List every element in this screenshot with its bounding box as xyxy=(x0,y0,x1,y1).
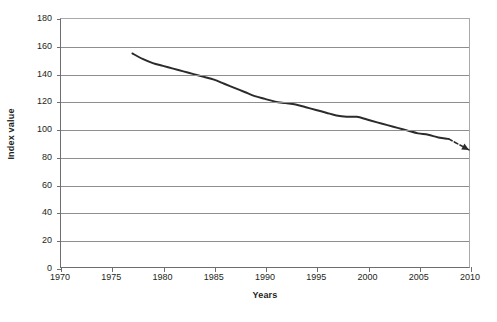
gridline xyxy=(61,241,469,242)
y-axis-tick-label: 100 xyxy=(37,124,52,134)
y-axis-tickmark xyxy=(57,130,61,131)
x-axis-tick-label: 1985 xyxy=(204,272,224,282)
y-axis-tick-label: 160 xyxy=(37,41,52,51)
y-axis-tickmark xyxy=(57,47,61,48)
y-axis-tickmark xyxy=(57,19,61,20)
y-axis-tickmark xyxy=(57,158,61,159)
gridline xyxy=(61,47,469,48)
y-axis-tick-label: 120 xyxy=(37,96,52,106)
y-axis-title-label: Index value xyxy=(6,108,16,159)
x-axis-tick-label: 2010 xyxy=(460,272,480,282)
y-axis-tick-label: 20 xyxy=(42,235,52,245)
data-series-svg xyxy=(61,19,469,267)
y-axis-tickmark xyxy=(57,213,61,214)
y-axis-tickmark xyxy=(57,241,61,242)
y-axis-tick-labels: 020406080100120140160180 xyxy=(22,0,56,290)
gridline xyxy=(61,130,469,131)
y-axis-tick-label: 180 xyxy=(37,13,52,23)
plot-area xyxy=(60,18,470,268)
x-axis-tick-label: 1990 xyxy=(255,272,275,282)
gridline xyxy=(61,102,469,103)
x-axis-title: Years xyxy=(60,290,470,300)
y-axis-title: Index value xyxy=(0,0,22,268)
y-axis-tickmark xyxy=(57,75,61,76)
x-axis-tick-label: 1995 xyxy=(306,272,326,282)
gridline xyxy=(61,213,469,214)
x-axis-tick-label: 2000 xyxy=(357,272,377,282)
y-axis-tick-label: 40 xyxy=(42,207,52,217)
y-axis-tick-label: 140 xyxy=(37,69,52,79)
x-axis-tick-label: 2005 xyxy=(409,272,429,282)
line-chart-figure: Index value 020406080100120140160180 197… xyxy=(0,0,497,322)
x-axis-tick-label: 1975 xyxy=(101,272,121,282)
x-axis-tick-label: 1980 xyxy=(152,272,172,282)
gridline xyxy=(61,158,469,159)
y-axis-tickmark xyxy=(57,102,61,103)
gridline xyxy=(61,75,469,76)
gridline xyxy=(61,186,469,187)
x-axis-tick-labels: 197019751980198519901995200020052010 xyxy=(60,272,470,288)
index-value-line xyxy=(132,53,448,138)
y-axis-tick-label: 60 xyxy=(42,180,52,190)
y-axis-tickmark xyxy=(57,186,61,187)
y-axis-tick-label: 80 xyxy=(42,152,52,162)
x-axis-tick-label: 1970 xyxy=(50,272,70,282)
